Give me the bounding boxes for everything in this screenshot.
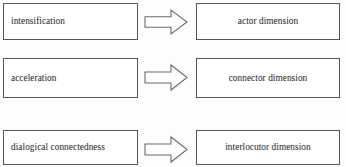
target-box: actor dimension bbox=[196, 3, 340, 40]
block-arrow-right-icon bbox=[144, 136, 188, 163]
block-arrow-right-icon bbox=[144, 9, 188, 35]
diagram-row: intensification actor dimension bbox=[0, 3, 346, 40]
source-box: dialogical connectedness bbox=[3, 130, 138, 165]
diagram-row: acceleration connector dimension bbox=[0, 58, 346, 98]
mapping-diagram: intensification actor dimension accelera… bbox=[0, 0, 346, 167]
block-arrow-right-icon bbox=[144, 64, 188, 91]
source-box: acceleration bbox=[3, 58, 138, 98]
diagram-row: dialogical connectedness interlocutor di… bbox=[0, 130, 346, 165]
target-box: interlocutor dimension bbox=[196, 130, 340, 165]
target-box: connector dimension bbox=[196, 58, 340, 98]
source-box: intensification bbox=[3, 3, 138, 40]
